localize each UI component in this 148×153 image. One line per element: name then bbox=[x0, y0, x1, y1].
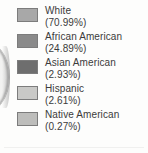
legend-label-native-american: Native American bbox=[45, 109, 119, 121]
legend-label-hispanic: Hispanic bbox=[45, 83, 84, 95]
legend-label-white: White bbox=[45, 5, 86, 17]
pie-arc-shading bbox=[2, 46, 10, 108]
legend-item-asian-american[interactable]: Asian American (2.93%) bbox=[17, 57, 148, 83]
legend-item-hispanic[interactable]: Hispanic (2.61%) bbox=[17, 83, 148, 109]
figure-bottom-rule bbox=[4, 147, 144, 148]
legend-swatch-white bbox=[17, 8, 38, 22]
legend-text-asian-american: Asian American (2.93%) bbox=[45, 57, 116, 80]
legend-text-native-american: Native American (0.27%) bbox=[45, 109, 119, 132]
legend-value-native-american: (0.27%) bbox=[45, 121, 119, 133]
legend-text-hispanic: Hispanic (2.61%) bbox=[45, 83, 84, 106]
legend-label-asian-american: Asian American bbox=[45, 57, 116, 69]
legend-value-african-american: (24.89%) bbox=[45, 43, 122, 55]
pie-chart-slice-edge bbox=[0, 40, 10, 114]
legend-swatch-hispanic bbox=[17, 86, 38, 100]
pie-chart-figure: White (70.99%) African American (24.89%)… bbox=[0, 0, 148, 153]
legend-value-asian-american: (2.93%) bbox=[45, 69, 116, 81]
legend-swatch-native-american bbox=[17, 112, 38, 126]
legend-text-african-american: African American (24.89%) bbox=[45, 31, 122, 54]
legend-value-white: (70.99%) bbox=[45, 17, 86, 29]
legend-text-white: White (70.99%) bbox=[45, 5, 86, 28]
legend-item-white[interactable]: White (70.99%) bbox=[17, 5, 148, 31]
legend-swatch-african-american bbox=[17, 34, 38, 48]
legend-item-african-american[interactable]: African American (24.89%) bbox=[17, 31, 148, 57]
legend-value-hispanic: (2.61%) bbox=[45, 95, 84, 107]
legend-swatch-asian-american bbox=[17, 60, 38, 74]
legend-label-african-american: African American bbox=[45, 31, 122, 43]
legend-item-native-american[interactable]: Native American (0.27%) bbox=[17, 109, 148, 135]
chart-legend: White (70.99%) African American (24.89%)… bbox=[17, 5, 148, 135]
